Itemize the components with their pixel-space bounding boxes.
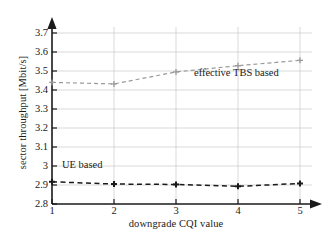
y-tick-label: 3.2: [24, 123, 48, 134]
series-label-effective-tbs-based: effective TBS based: [194, 68, 279, 79]
y-tick-label: 3.5: [24, 66, 48, 77]
y-axis-title: sector throughput [Mbit/s]: [17, 28, 28, 198]
data-point-marker: [49, 79, 55, 85]
y-tick-label: 3.3: [24, 104, 48, 115]
x-axis-title: downgrade CQI value: [52, 218, 300, 229]
x-axis-arrow-icon: [310, 199, 322, 208]
y-tick-label: 3.7: [24, 28, 48, 39]
chart-figure: 2.82.933.13.23.33.43.53.63.7 12345 secto…: [0, 0, 335, 247]
data-point-marker: [173, 69, 179, 75]
data-point-marker: [297, 180, 303, 186]
data-point-marker: [49, 179, 55, 185]
data-point-marker: [111, 181, 117, 187]
y-tick-label: 3.4: [24, 85, 48, 96]
x-tick-label: 2: [104, 206, 124, 217]
x-tick-label: 5: [290, 206, 310, 217]
gridlines-group: [52, 27, 312, 204]
y-tick-label: 3: [24, 161, 48, 172]
y-tick-label: 2.9: [24, 180, 48, 191]
data-point-marker: [235, 183, 241, 189]
series-label-ue-based: UE based: [62, 160, 103, 171]
y-axis-arrow-icon: [47, 17, 56, 29]
data-point-marker: [297, 57, 303, 63]
x-tick-label: 4: [228, 206, 248, 217]
data-point-marker: [111, 81, 117, 87]
y-tick-label: 3.1: [24, 142, 48, 153]
x-tick-label: 3: [166, 206, 186, 217]
y-tick-label: 3.6: [24, 47, 48, 58]
x-tick-label: 1: [42, 206, 62, 217]
data-point-marker: [173, 181, 179, 187]
